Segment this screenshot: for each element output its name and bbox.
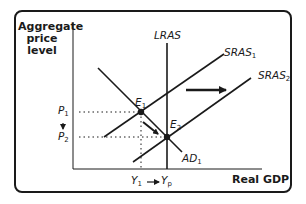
e2-label-text: E [170,118,177,130]
y-axis-label-line3: level [18,45,66,57]
y-axis-label: Aggregate price level [18,21,66,57]
e1-label-sub: 1 [142,102,146,110]
sras1-label-text: SRAS [224,46,252,58]
y1-label: Y1 [131,174,142,188]
e1-label: E1 [135,96,146,110]
sras1-curve [104,54,224,137]
sras1-label: SRAS1 [224,46,256,60]
ad1-label-text: AD [182,152,197,164]
yp-label-sub: p [167,180,171,188]
p1-label-sub: 1 [64,110,68,118]
e2-label: E2 [170,118,181,132]
p2-label: P2 [58,130,69,144]
sras2-label-text: SRAS [258,69,286,81]
p2-label-sub: 2 [64,136,68,144]
sras1-label-sub: 1 [252,52,256,60]
x-axis-label: Real GDP [232,173,289,186]
ad1-label-sub: 1 [197,158,201,166]
ad1-label: AD1 [182,152,202,166]
e2-label-sub: 2 [177,124,181,132]
movement-arrow-icon [143,122,158,134]
e2-point [164,134,170,140]
sras2-label-sub: 2 [286,75,290,83]
y1-label-sub: 1 [137,180,141,188]
e1-label-text: E [135,96,142,108]
sras2-label: SRAS2 [258,69,290,83]
p1-label: P1 [58,104,69,118]
yp-label: Yp [161,174,172,188]
lras-label: LRAS [154,29,181,41]
